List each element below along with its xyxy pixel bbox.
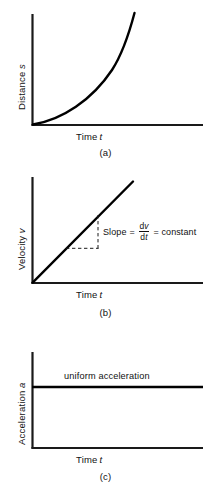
panel-acceleration-vs-time: Accelerationa Timet (c) [0,324,211,487]
velocity-plot-svg [0,162,211,324]
y-axis-label-symbol: v [16,228,27,235]
x-axis-label-text: Time [76,289,97,300]
derivative-fraction: dv dt [137,222,150,241]
y-axis-label-velocity: Velocityv [16,228,27,270]
y-axis-label-text: Acceleration [16,391,27,445]
x-axis-label-symbol: t [97,454,102,465]
slope-result-constant: constant [161,227,196,237]
x-axis-label-time: Timet [76,289,102,300]
x-axis-label-time: Timet [76,454,102,465]
result-equals-sign: = [151,227,162,237]
distance-curve [33,13,135,125]
panel-caption-c: (c) [0,471,211,482]
x-axis-label-text: Time [76,454,97,465]
denominator-symbol-t: t [145,232,147,242]
fraction-denominator: dt [139,231,148,241]
numerator-symbol-v: v [144,221,148,231]
panel-velocity-vs-time: Velocityv Timet (b) [0,162,211,324]
y-axis-label-symbol: s [16,64,27,71]
x-axis-label-time: Timet [76,131,102,142]
slope-label: Slope [103,227,127,237]
uniform-acceleration-label: uniform acceleration [64,371,150,381]
y-axis-label-distance: Distances [16,64,27,110]
panel-caption-b: (b) [0,307,211,318]
panel-caption-a: (a) [0,147,211,158]
panel-distance-vs-time: Distances Timet (a) [0,0,211,162]
y-axis-label-text: Velocity [16,236,27,270]
x-axis-label-symbol: t [97,131,102,142]
distance-plot-svg [0,0,211,162]
acceleration-plot-svg [0,324,211,487]
x-axis-label-text: Time [76,131,97,142]
y-axis-label-acceleration: Accelerationa [16,383,27,445]
x-axis-label-symbol: t [97,289,102,300]
slope-equals-sign: = [127,227,138,237]
y-axis-label-text: Distance [16,72,27,110]
fraction-numerator: dv [138,222,149,231]
y-axis-label-symbol: a [16,383,27,391]
slope-annotation: Slope = dv dt = constant [103,222,196,241]
